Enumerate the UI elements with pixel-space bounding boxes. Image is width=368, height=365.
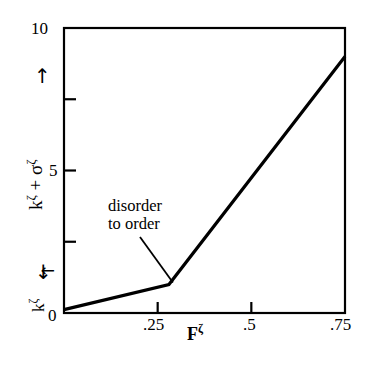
- up-arrow-icon: ↑: [34, 66, 51, 86]
- y-axis-title: kζ + σζ: [26, 159, 45, 210]
- annotation-leader-line: [140, 237, 173, 283]
- x-tick-label-0-5: .5: [243, 316, 256, 333]
- plot-frame-rect: [64, 28, 345, 313]
- annotation-disorder-to-order: disorder to order: [108, 197, 162, 234]
- annotation-line-2: to order: [108, 215, 162, 233]
- annotation-line-1: disorder: [108, 197, 162, 215]
- y-axis-title-plus-sigma: + σ: [25, 165, 46, 195]
- origin-label-0: 0: [48, 307, 57, 324]
- x-tick-label-0-25: .25: [143, 316, 164, 333]
- y-axis-title-k: k: [25, 201, 46, 211]
- y-tick-label-5: 5: [49, 162, 58, 179]
- y-axis-title-sup-1: ζ: [23, 195, 38, 200]
- x-axis-title: Fζ: [187, 325, 203, 343]
- k-zeta-marker: kζ: [30, 299, 47, 312]
- x-tick-label-0-75: .75: [330, 316, 351, 333]
- data-line-k-plus-sigma: [64, 57, 345, 310]
- k-zeta-marker-arrow-icon: ↑: [40, 264, 57, 278]
- axes-frame: [64, 28, 345, 313]
- y-axis-ticks: [64, 99, 76, 242]
- x-axis-title-superscript: ζ: [198, 322, 203, 336]
- figure-container: 10 5 0 .25 .5 .75 Fζ kζ + σζ ↑ ↓ kζ ↑ di…: [0, 0, 368, 365]
- x-axis-ticks: [158, 302, 252, 313]
- y-axis-title-sup-2: ζ: [23, 159, 38, 164]
- k-zeta-marker-base: k: [29, 304, 48, 313]
- x-axis-title-base: F: [187, 324, 198, 344]
- k-zeta-marker-superscript: ζ: [27, 299, 40, 304]
- y-tick-label-10: 10: [31, 20, 48, 37]
